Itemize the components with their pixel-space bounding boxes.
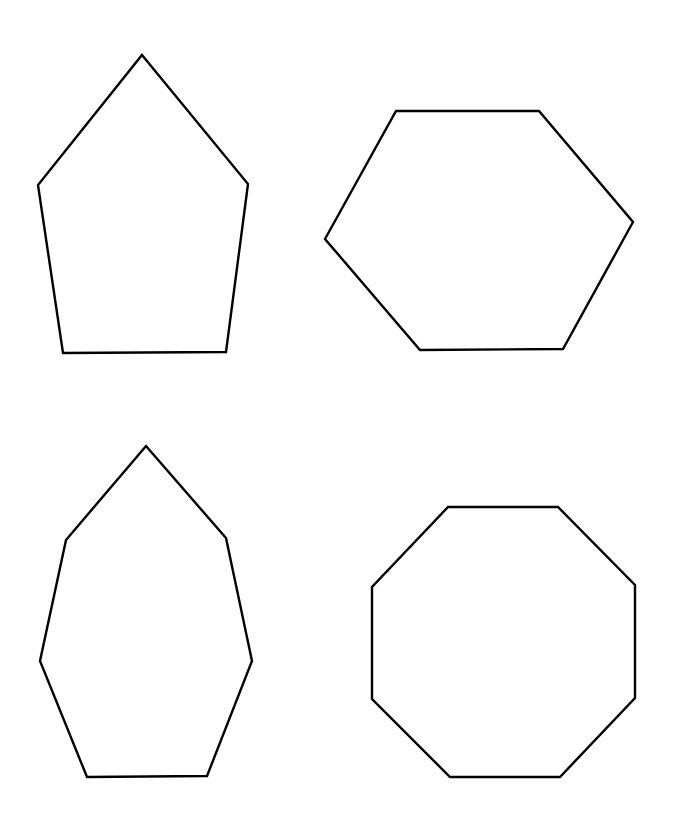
- octagon-shape: [372, 507, 635, 777]
- heptagon-shape: [40, 446, 252, 777]
- hexagon-shape: [325, 111, 633, 350]
- pentagon-shape: [38, 55, 248, 353]
- polygon-canvas: [0, 0, 675, 815]
